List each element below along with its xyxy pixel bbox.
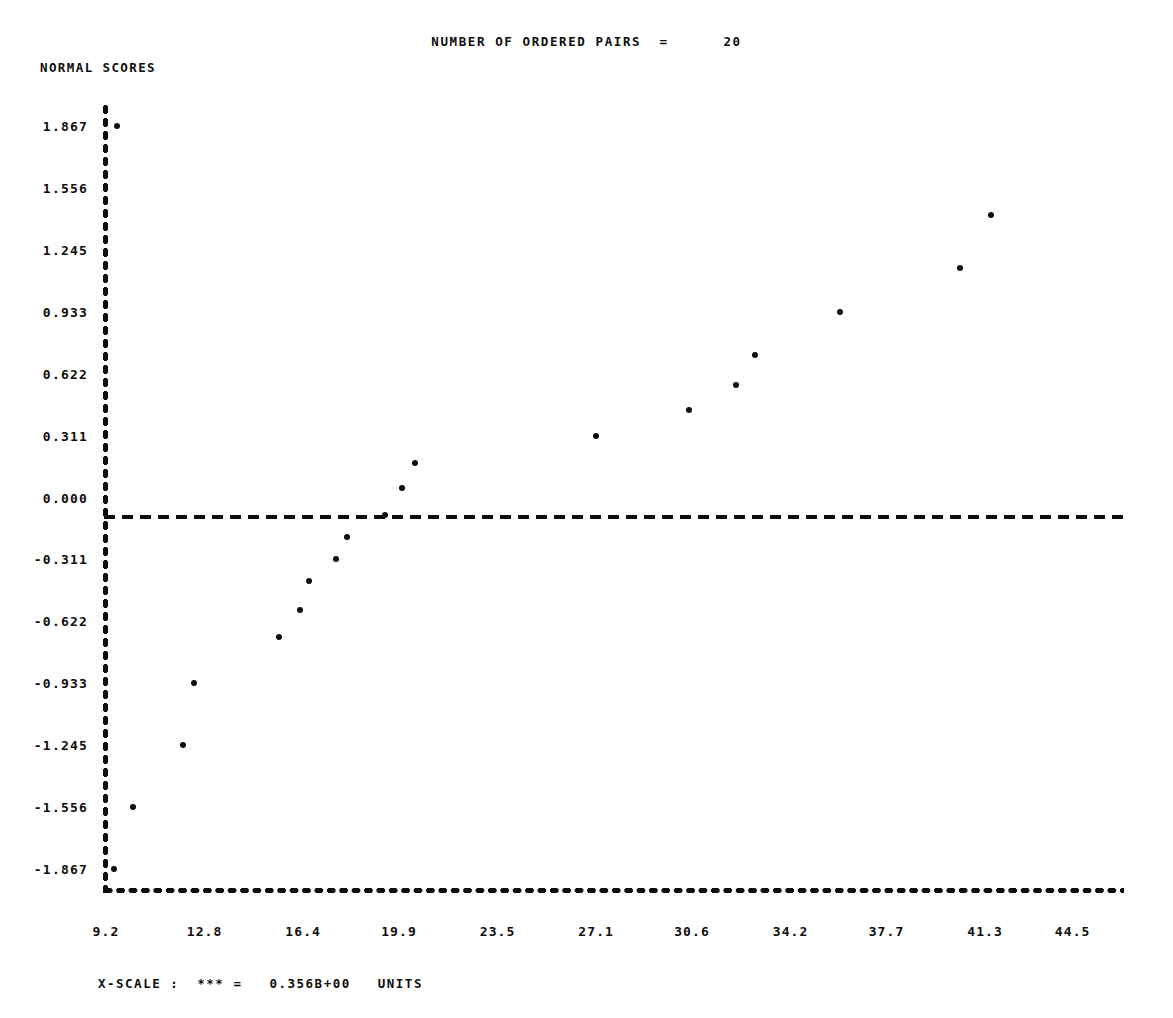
data-point bbox=[276, 634, 282, 640]
data-point bbox=[593, 433, 599, 439]
x-axis-tick-label: 12.8 bbox=[175, 925, 235, 938]
y-axis-tick-label: -1.867 bbox=[12, 863, 88, 876]
scatter-plot: 1.8671.5561.2450.9330.6220.3110.000-0.31… bbox=[0, 0, 1173, 1018]
data-point bbox=[306, 578, 312, 584]
data-point bbox=[733, 382, 739, 388]
x-axis-tick-label: 9.2 bbox=[76, 925, 136, 938]
data-point bbox=[686, 407, 692, 413]
y-axis-spine bbox=[102, 103, 109, 893]
y-axis-tick-label: -1.556 bbox=[12, 801, 88, 814]
x-axis-tick-label: 34.2 bbox=[761, 925, 821, 938]
data-point bbox=[191, 680, 197, 686]
zero-reference-line bbox=[104, 515, 1124, 519]
x-axis-tick-label: 23.5 bbox=[468, 925, 528, 938]
y-axis-tick-label: 1.556 bbox=[12, 181, 88, 194]
data-point bbox=[412, 460, 418, 466]
y-axis-tick-label: 0.000 bbox=[12, 491, 88, 504]
data-point bbox=[399, 485, 405, 491]
page-title: NUMBER OF ORDERED PAIRS = 20 bbox=[0, 36, 1173, 49]
x-axis-tick-label: 16.4 bbox=[273, 925, 333, 938]
x-axis-tick-label: 30.6 bbox=[662, 925, 722, 938]
data-point bbox=[837, 309, 843, 315]
y-axis-tick-label: 1.867 bbox=[12, 120, 88, 133]
x-axis-tick-label: 44.5 bbox=[1043, 925, 1103, 938]
x-axis-tick-label: 41.3 bbox=[955, 925, 1015, 938]
data-point bbox=[988, 212, 994, 218]
data-point bbox=[114, 123, 120, 129]
y-axis-tick-label: 0.933 bbox=[12, 305, 88, 318]
y-axis-tick-label: -0.311 bbox=[12, 553, 88, 566]
x-axis-tick-label: 27.1 bbox=[566, 925, 626, 938]
data-point bbox=[382, 512, 388, 518]
y-axis-tick-label: -0.622 bbox=[12, 615, 88, 628]
x-axis-tick-label: 19.9 bbox=[369, 925, 429, 938]
data-point bbox=[180, 742, 186, 748]
y-axis-title: NORMAL SCORES bbox=[40, 62, 156, 75]
y-axis-tick-label: 0.311 bbox=[12, 429, 88, 442]
x-axis-spine bbox=[102, 887, 1124, 894]
y-axis-tick-label: 0.622 bbox=[12, 367, 88, 380]
y-axis-tick-label: 1.245 bbox=[12, 243, 88, 256]
data-point bbox=[333, 556, 339, 562]
data-point bbox=[111, 866, 117, 872]
x-scale-note: X-SCALE : *** = 0.356B+00 UNITS bbox=[98, 978, 423, 991]
y-axis-tick-label: -0.933 bbox=[12, 677, 88, 690]
data-point bbox=[297, 607, 303, 613]
data-point bbox=[752, 352, 758, 358]
x-axis-tick-label: 37.7 bbox=[856, 925, 916, 938]
y-axis-tick-label: -1.245 bbox=[12, 739, 88, 752]
data-point bbox=[130, 804, 136, 810]
data-point bbox=[344, 534, 350, 540]
data-point bbox=[957, 265, 963, 271]
